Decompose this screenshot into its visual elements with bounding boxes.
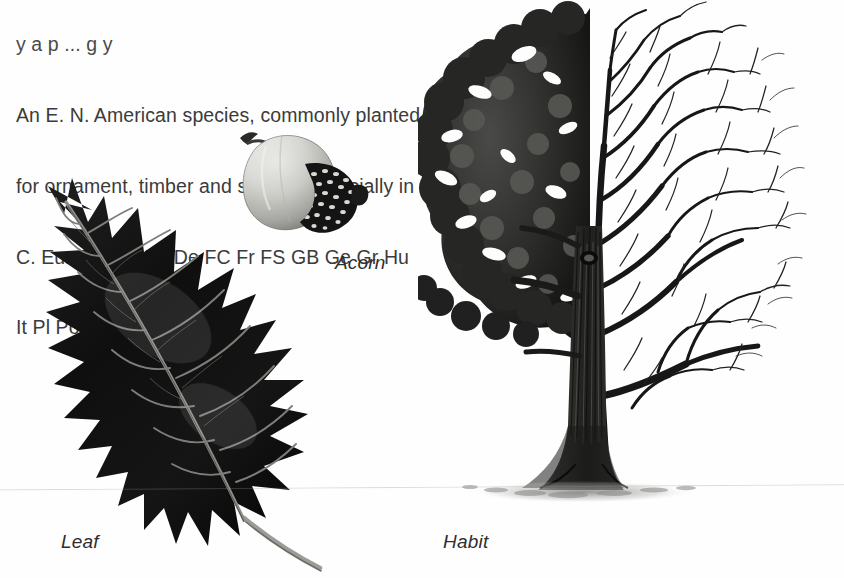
field-guide-plate-page: y a p ... g y An E. N. American species,… — [0, 0, 844, 578]
tree-branches-winter — [598, 2, 806, 448]
leaf-petiole — [244, 518, 320, 568]
habit-illustration — [418, 0, 818, 536]
caption-habit: Habit — [443, 531, 488, 553]
leaf-illustration — [8, 168, 348, 578]
acorn-cup-tip — [351, 185, 368, 206]
description-line-clipped: y a p ... g y — [16, 33, 446, 57]
caption-leaf: Leaf — [61, 531, 99, 553]
tree-foliage-summer — [418, 1, 590, 348]
